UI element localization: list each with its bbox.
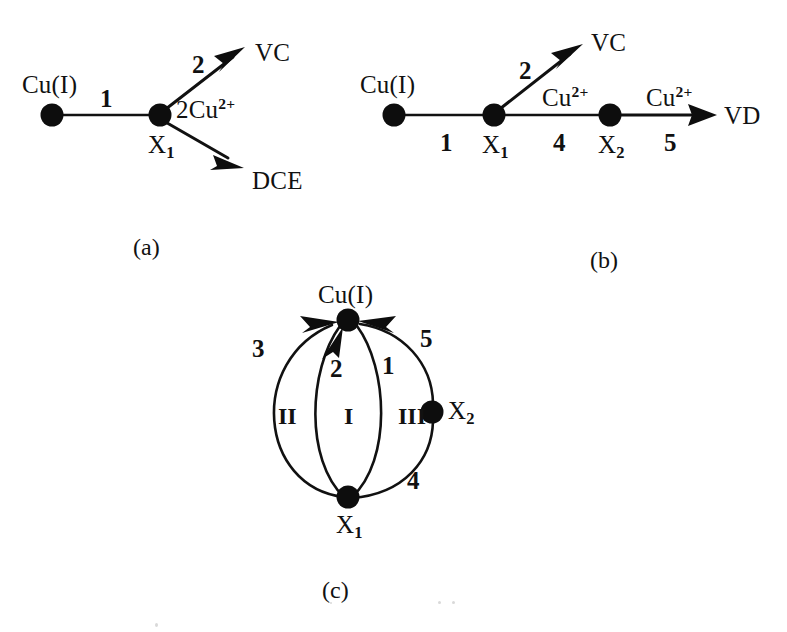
panel-a-node-label-cu1: Cu(I): [22, 72, 77, 97]
panel-a-reagent-label: 2Cu2+: [176, 96, 235, 122]
panel-c-step-label-5: 5: [420, 326, 433, 351]
panel-c-node-label-x1: X1: [336, 512, 363, 542]
panel-b-terminal-label-vc: VC: [591, 30, 626, 55]
scan-speck: [452, 601, 455, 604]
panel-a-node-label-x1: X1: [148, 132, 175, 162]
reagent-base: 2Cu: [176, 96, 218, 123]
x1-subscript: 1: [354, 523, 362, 542]
panel-a-step-label-1: 1: [100, 86, 113, 111]
panel-a-caption: (a): [133, 235, 160, 259]
panel-b-node-label-x1: X1: [482, 132, 509, 162]
panel-c-step-label-1: 1: [382, 353, 395, 378]
panel-b-reagent-label-4: Cu2+: [542, 84, 589, 110]
panel-b-node-x1: [483, 104, 506, 127]
panel-c-step-label-2: 2: [330, 356, 343, 381]
panel-b-step-label-5: 5: [664, 130, 677, 155]
panel-c-node-label-cu1: Cu(I): [318, 282, 373, 307]
panel-a-terminal-label-vc: VC: [255, 40, 290, 65]
panel-b-reagent-label-5: Cu2+: [646, 84, 693, 110]
x2-subscript: 2: [616, 143, 624, 162]
panel-c-arc-4: [352, 421, 433, 498]
x1-subscript: 1: [500, 143, 508, 162]
panel-a-terminal-label-dce: DCE: [252, 168, 303, 193]
panel-c-step-label-4: 4: [407, 468, 420, 493]
panel-c-caption: (c): [322, 578, 349, 602]
reagent-base: Cu: [646, 84, 676, 111]
panel-b-step-label-1: 1: [440, 130, 453, 155]
panel-c-node-x1: [337, 486, 360, 509]
panel-c-step-label-3: 3: [252, 336, 265, 361]
panel-c-loop-label-I: I: [344, 404, 353, 428]
panel-c-loop-label-III: III: [398, 404, 426, 428]
panel-a-node-cu1: [41, 104, 64, 127]
x1-base: X: [336, 511, 354, 538]
panel-b-caption: (b): [590, 248, 618, 272]
panel-b-step-label-2: 2: [519, 58, 532, 83]
panel-c-arc-1: [352, 326, 381, 497]
panel-b-node-cu1: [383, 104, 406, 127]
reagent-superscript: 2+: [676, 83, 693, 100]
panel-c-node-label-x2: X2: [448, 398, 475, 428]
reagent-superscript: 2+: [218, 95, 235, 112]
x2-base: X: [598, 131, 616, 158]
panel-c-node-cu1: [337, 309, 360, 332]
panel-a-step-label-2: 2: [192, 52, 205, 77]
panel-b-node-x2: [599, 104, 622, 127]
scan-speck: [330, 602, 332, 604]
panel-a-node-x1: [149, 104, 172, 127]
panel-b-step-label-4: 4: [553, 130, 566, 155]
reagent-base: Cu: [542, 84, 572, 111]
x1-base: X: [482, 131, 500, 158]
panel-b-node-label-cu1: Cu(I): [360, 72, 415, 97]
panel-b-node-label-x2: X2: [598, 132, 625, 162]
reagent-superscript: 2+: [572, 83, 589, 100]
x2-subscript: 2: [466, 409, 474, 428]
scan-speck: [438, 601, 441, 604]
figure-root: Cu(I) X1 1 2 2Cu2+ VC DCE (a) Cu(I) X1 X…: [0, 0, 787, 632]
x1-base: X: [148, 131, 166, 158]
panel-b-terminal-label-vd: VD: [724, 103, 761, 128]
x2-base: X: [448, 397, 466, 424]
x1-subscript: 1: [166, 143, 174, 162]
scan-speck: [155, 623, 158, 627]
panel-c-loop-label-II: II: [278, 404, 297, 428]
